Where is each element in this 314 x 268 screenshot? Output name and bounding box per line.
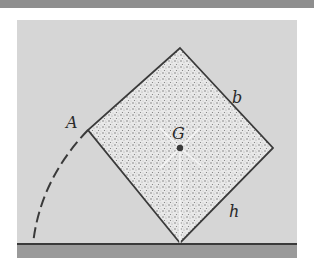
dashed-arc-path bbox=[33, 130, 88, 244]
label-b: b bbox=[232, 90, 242, 106]
label-A: A bbox=[66, 115, 78, 131]
label-G: G bbox=[172, 126, 185, 142]
center-of-mass-dot bbox=[177, 145, 183, 151]
block-diagram bbox=[0, 0, 314, 268]
label-h: h bbox=[229, 204, 239, 220]
ground-band bbox=[17, 244, 297, 258]
